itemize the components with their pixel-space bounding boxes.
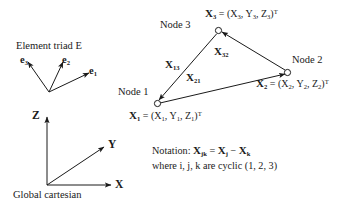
node3-coord-y-base: Y [245,8,252,19]
axis-label-z: Z [32,110,40,122]
element-triad-arrows [28,62,89,92]
node-marker-1 [154,100,160,106]
node1-vector-base: X [129,109,137,121]
edge-vector-x32 [222,32,285,70]
notation-line-1: Notation: Xjk = Xj − Xk [152,143,277,159]
notation-rhs1-base: X [218,144,226,156]
node2-vector-base: X [256,77,264,89]
triad-label-e1: e1 [89,66,97,77]
edge-x13-sub: 13 [173,64,180,71]
node-marker-3 [215,27,221,33]
node2-coord-y-base: Y [296,78,303,89]
node-label-1: Node 1 [118,87,149,98]
notation-equals: = [207,145,218,156]
triad-arrow-e1 [49,73,89,92]
node2-coordinate-expression: X2 = (X2, Y2, Z2)T [256,78,329,90]
edge-x21-sub: 21 [194,77,201,84]
triad-label-e3: e3 [20,55,28,66]
triad-e2-sub: 2 [67,59,70,66]
notation-rhs2-sub: k [247,150,251,157]
axis-label-y: Y [108,139,116,151]
notation-block: Notation: Xjk = Xj − Xk where i, j, k ar… [152,143,277,172]
finite-element-triad-diagram: Element triad E e3 e2 e1 Z Y X Global ca… [0,0,344,208]
node3-transpose: T [274,8,278,15]
node1-coord-y-base: Y [169,110,176,121]
edge-x21-base: X [186,71,194,83]
notation-rhs2-base: X [239,144,247,156]
edge-x32-sub: 32 [222,51,229,58]
edge-label-x32: X32 [214,46,229,58]
triad-e3-sub: 3 [25,59,28,66]
node-label-3: Node 3 [160,20,191,31]
node1-coordinate-expression: X1 = (X1, Y1, Z1)T [129,110,202,122]
node3-coordinate-expression: X3 = (X3, Y3, Z3)T [205,8,278,20]
node3-equals: = [216,8,227,19]
element-triad-title: Element triad E [16,41,82,52]
node2-equals: = [267,78,278,89]
global-cartesian-axes [47,117,111,185]
notation-lhs-base: X [193,144,201,156]
axis-label-x: X [115,179,123,191]
edge-x13-base: X [165,58,173,70]
edge-label-x13: X13 [165,59,180,71]
triad-arrow-e3 [28,62,49,92]
node1-transpose: T [198,110,202,117]
node2-transpose: T [325,78,329,85]
node1-equals: = [140,110,151,121]
notation-minus: − [228,145,239,156]
axis-arrow-y [47,147,104,185]
triad-label-e2: e2 [62,55,70,66]
diagram-vector-canvas [0,0,344,208]
node-marker-2 [284,69,290,75]
node3-vector-base: X [205,7,213,19]
edge-x32-base: X [214,45,222,57]
node-label-2: Node 2 [292,55,323,66]
notation-prefix: Notation: [152,145,193,156]
notation-line-2: where i, j, k are cyclic (1, 2, 3) [152,159,277,172]
edge-label-x21: X21 [186,72,201,84]
triad-e1-sub: 1 [94,70,97,77]
triad-arrow-e2 [49,62,63,92]
global-cartesian-caption: Global cartesian [13,190,82,201]
